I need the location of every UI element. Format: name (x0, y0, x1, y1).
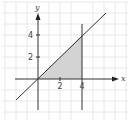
x-tick-label-2: 2 (58, 82, 63, 91)
x-tick-label-4: 4 (80, 82, 85, 91)
y-axis-label: y (34, 3, 40, 12)
y-tick-label-4: 4 (28, 31, 33, 40)
coordinate-plane: x y 2 4 2 4 (0, 0, 130, 122)
y-axis-arrow-icon (36, 13, 41, 20)
x-axis-label: x (121, 74, 126, 83)
y-tick-label-2: 2 (28, 53, 33, 62)
